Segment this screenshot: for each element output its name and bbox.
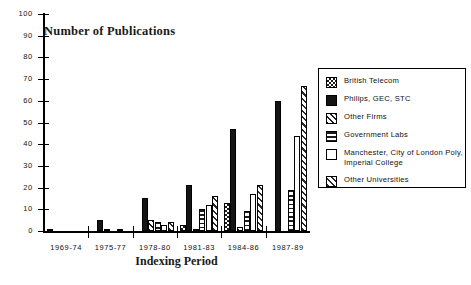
bar	[142, 198, 148, 231]
legend-item-2[interactable]: Philips, GEC, STC	[326, 94, 411, 106]
bar	[161, 225, 167, 232]
bar	[288, 190, 294, 231]
legend-swatch-icon	[326, 113, 337, 124]
bar	[97, 220, 103, 231]
legend-swatch-icon	[326, 149, 337, 160]
bar	[168, 222, 174, 231]
bar	[117, 229, 123, 231]
legend-item-label: Government Labs	[344, 130, 408, 140]
bar	[212, 196, 218, 231]
bar	[294, 136, 300, 231]
bar	[186, 185, 192, 231]
bar	[193, 229, 199, 231]
bar	[47, 229, 53, 231]
legend-item-4[interactable]: Government Labs	[326, 130, 408, 142]
legend-swatch-icon	[326, 131, 337, 142]
bar	[250, 194, 256, 231]
bar	[206, 205, 212, 231]
legend-item-label: Other Universities	[344, 175, 409, 185]
bar	[104, 229, 110, 231]
legend-item-label: Other Firms	[344, 112, 387, 122]
legend-item-5[interactable]: Manchester, City of London Poly, Imperia…	[326, 148, 463, 167]
bar	[230, 129, 236, 231]
bar	[257, 185, 263, 231]
bar	[199, 209, 205, 231]
legend-swatch-icon	[326, 176, 337, 187]
bar	[180, 225, 186, 232]
legend-item-6[interactable]: Other Universities	[326, 175, 409, 187]
bar	[275, 101, 281, 231]
chart-legend: British TelecomPhilips, GEC, STCOther Fi…	[318, 68, 466, 188]
legend-item-3[interactable]: Other Firms	[326, 112, 387, 124]
legend-item-1[interactable]: British Telecom	[326, 76, 399, 88]
publications-bar-chart: Number of Publications 01020304050607080…	[0, 0, 471, 285]
legend-item-label: Manchester, City of London Poly, Imperia…	[344, 148, 463, 167]
legend-item-label: British Telecom	[344, 76, 399, 86]
bar	[301, 86, 307, 231]
bar	[224, 203, 230, 231]
bar	[148, 220, 154, 231]
legend-swatch-icon	[326, 77, 337, 88]
bar	[237, 227, 243, 231]
bar	[155, 222, 161, 231]
legend-item-label: Philips, GEC, STC	[344, 94, 411, 104]
bar	[244, 211, 250, 231]
legend-swatch-icon	[326, 95, 337, 106]
